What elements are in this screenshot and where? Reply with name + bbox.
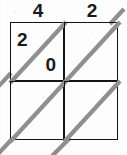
diagonal-tail-lower-middle (54, 140, 74, 155)
top-label-column-0: 4 (24, 0, 52, 22)
cell-diagonal-r1c0 (11, 82, 63, 139)
lattice-cell-r1c1[interactable] (64, 81, 118, 140)
lattice-cell-r1c0[interactable] (10, 81, 64, 140)
lattice-multiplication-figure: 4 2 2 0 (0, 0, 127, 155)
lattice-cell-r0c1[interactable] (64, 22, 118, 81)
top-label-column-1: 2 (78, 0, 106, 22)
lattice-grid: 2 0 (10, 22, 118, 140)
cell-upper-digit-r0c0: 2 (17, 30, 28, 49)
cell-lower-digit-r0c0: 0 (45, 55, 56, 74)
lattice-cell-r0c0[interactable]: 2 0 (10, 22, 64, 81)
cell-diagonal-r1c1 (65, 82, 117, 139)
cell-diagonal-r0c1 (65, 23, 117, 80)
